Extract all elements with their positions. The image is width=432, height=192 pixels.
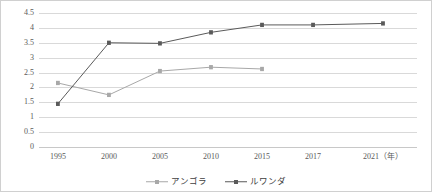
legend-swatch-icon	[225, 177, 247, 186]
y-axis-tick-label: 1	[30, 113, 34, 121]
data-point-marker	[260, 23, 264, 27]
y-axis-tick-label: 1.5	[24, 98, 34, 106]
x-axis-tick-label: 2000	[101, 153, 117, 161]
chart-legend: アンゴラルワンダ	[1, 177, 431, 186]
line-chart-figure: 00.511.522.533.544.5 1995200020052010201…	[0, 0, 432, 192]
y-axis-tick-label: 4	[30, 24, 34, 32]
x-axis-tick-label: 2017	[305, 153, 321, 161]
data-point-marker	[311, 23, 315, 27]
data-point-marker	[260, 67, 264, 71]
y-axis-tick-label: 3	[30, 54, 34, 62]
data-point-marker	[209, 65, 213, 69]
y-axis-tick-label: 3.5	[24, 39, 34, 47]
data-point-marker	[158, 41, 162, 45]
x-axis-tick-label: 2010	[203, 153, 219, 161]
legend-swatch-icon	[146, 177, 168, 186]
x-axis-tick-label: 1995	[50, 153, 66, 161]
y-axis-tick-label: 0.5	[24, 128, 34, 136]
data-point-marker	[56, 81, 60, 85]
data-point-marker	[209, 30, 213, 34]
y-axis-tick-label: 0	[30, 143, 34, 151]
x-axis-tick-label: 2021（年）	[363, 153, 403, 161]
series-layer	[39, 13, 417, 147]
gridline	[39, 147, 417, 148]
series-line-ルワンダ	[58, 23, 383, 103]
data-point-marker	[158, 69, 162, 73]
legend-label: アンゴラ	[171, 177, 207, 186]
y-axis-tick-label: 2.5	[24, 69, 34, 77]
x-axis-tick-label: 2015	[254, 153, 270, 161]
legend-item-アンゴラ[interactable]: アンゴラ	[146, 177, 207, 186]
data-point-marker	[381, 21, 385, 25]
data-point-marker	[56, 102, 60, 106]
data-point-marker	[107, 93, 111, 97]
y-axis-tick-label: 4.5	[24, 9, 34, 17]
plot-area: 00.511.522.533.544.5	[39, 13, 417, 147]
x-axis-tick-label: 2005	[152, 153, 168, 161]
data-point-marker	[107, 41, 111, 45]
x-axis-tick-labels: 1995200020052010201520172021（年）	[39, 153, 417, 165]
legend-label: ルワンダ	[250, 177, 286, 186]
y-axis-tick-label: 2	[30, 83, 34, 91]
legend-item-ルワンダ[interactable]: ルワンダ	[225, 177, 286, 186]
